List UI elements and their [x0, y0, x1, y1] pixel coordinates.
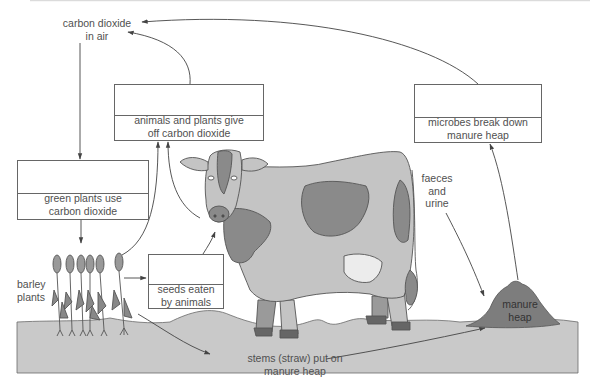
box-line: microbes break down: [415, 116, 541, 129]
label-line: manure: [495, 298, 545, 311]
box-feeding: seeds eaten by animals: [148, 254, 224, 309]
label-line: stems (straw) put on: [230, 352, 360, 365]
label-line: and: [420, 185, 454, 198]
label-line: plants: [17, 291, 46, 304]
label-faeces-and-urine: faeces and urine: [420, 172, 454, 210]
box-line: seeds eaten: [149, 283, 223, 296]
label-manure-heap: manure heap: [495, 298, 545, 323]
box-line: manure heap: [415, 129, 541, 142]
label-line: in air: [56, 30, 138, 43]
arrow-manure-to-microbes: [490, 144, 518, 280]
box-decomposition: microbes break down manure heap: [414, 84, 542, 143]
cow-illustration: [180, 150, 417, 338]
box-text: green plants use carbon dioxide: [18, 192, 148, 219]
label-carbon-dioxide-in-air: carbon dioxide in air: [56, 17, 138, 42]
box-line: carbon dioxide: [18, 205, 148, 218]
carbon-cycle-diagram: carbon dioxide in air barley plants faec…: [0, 0, 594, 390]
answer-blank[interactable]: [18, 161, 148, 194]
label-line: manure heap: [230, 365, 360, 378]
answer-blank[interactable]: [115, 85, 263, 116]
box-text: microbes break down manure heap: [415, 116, 541, 142]
box-line: off carbon dioxide: [115, 127, 263, 140]
answer-blank[interactable]: [415, 85, 541, 118]
box-text: seeds eaten by animals: [149, 283, 223, 308]
label-line: barley: [17, 278, 46, 291]
cropped-header-text: [30, 0, 590, 1]
box-line: green plants use: [18, 192, 148, 205]
label-stems-straw: stems (straw) put on manure heap: [230, 352, 360, 377]
label-line: heap: [495, 311, 545, 324]
box-line: animals and plants give: [115, 114, 263, 127]
arrow-microbes-to-air: [142, 19, 478, 84]
label-line: carbon dioxide: [56, 17, 138, 30]
arrow-cow-to-respiration: [168, 142, 200, 218]
arrow-faeces-to-manure: [446, 213, 484, 296]
label-line: urine: [420, 197, 454, 210]
label-barley-plants: barley plants: [17, 278, 46, 303]
box-respiration: animals and plants give off carbon dioxi…: [114, 84, 264, 141]
box-photosynthesis: green plants use carbon dioxide: [17, 160, 149, 220]
label-line: faeces: [420, 172, 454, 185]
box-text: animals and plants give off carbon dioxi…: [115, 114, 263, 140]
arrow-seeds-to-cow: [203, 232, 215, 254]
box-line: by animals: [149, 296, 223, 309]
answer-blank[interactable]: [149, 255, 223, 285]
